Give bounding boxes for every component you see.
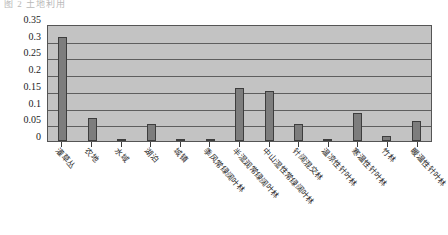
label-slot: 竹林 (373, 147, 403, 235)
label-slot: 农地 (77, 147, 107, 235)
x-category-label: 水域 (113, 147, 130, 165)
x-category-label: 农地 (83, 147, 100, 165)
label-slot: 湖泊 (136, 147, 166, 235)
label-slot: 季风常绿阔叶林 (195, 147, 225, 235)
bar (323, 139, 332, 141)
bar (58, 37, 67, 141)
bar (353, 113, 362, 141)
plot-area (47, 25, 432, 142)
label-slot: 中山湿性常绿阔叶林 (254, 147, 284, 235)
bar (265, 91, 274, 141)
bar-slot (195, 26, 224, 141)
bar (147, 124, 156, 141)
bar-slot (254, 26, 283, 141)
bar-slot (225, 26, 254, 141)
bar-slot (313, 26, 342, 141)
clipped-header-text: 图 2 土地利用 (4, 0, 164, 9)
bar-slot (107, 26, 136, 141)
label-slot: 灌草丛 (47, 147, 77, 235)
y-tick-label: 0.05 (24, 115, 42, 125)
label-slot: 半湿润常绿阔叶林 (225, 147, 255, 235)
label-slot: 水域 (106, 147, 136, 235)
bar-series (48, 26, 431, 141)
y-tick-label: 0.35 (24, 15, 42, 25)
bar-slot (166, 26, 195, 141)
y-tick-label: 0.15 (24, 82, 42, 92)
label-slot: 暖温性针叶林 (402, 147, 432, 235)
label-slot: 寒温性针叶林 (343, 147, 373, 235)
bar-slot (343, 26, 372, 141)
x-category-label: 城镇 (172, 147, 189, 165)
bar (206, 139, 215, 141)
bar (176, 139, 185, 141)
bar-slot (372, 26, 401, 141)
bar-slot (284, 26, 313, 141)
y-axis-tick-labels: 0.350.30.250.20.150.10.050 (0, 20, 44, 142)
bar (117, 139, 126, 141)
x-axis-category-labels: 灌草丛农地水域湖泊城镇季风常绿阔叶林半湿润常绿阔叶林中山湿性常绿阔叶林针阔混交林… (47, 147, 432, 235)
x-category-label: 湖泊 (143, 147, 160, 165)
y-tick-label: 0.25 (24, 48, 42, 58)
y-tick-label: 0.3 (29, 32, 42, 42)
y-tick-label: 0.2 (29, 65, 42, 75)
x-category-label: 暖温性针叶林 (409, 147, 448, 189)
bar-slot (136, 26, 165, 141)
bar (88, 118, 97, 141)
x-category-label: 竹林 (379, 147, 396, 165)
bar-slot (77, 26, 106, 141)
label-slot: 针阔混交林 (284, 147, 314, 235)
y-tick-label: 0 (36, 132, 41, 142)
label-slot: 城镇 (165, 147, 195, 235)
bar (294, 124, 303, 141)
bar-slot (402, 26, 431, 141)
label-slot: 温凉性针叶林 (313, 147, 343, 235)
bar (235, 88, 244, 141)
bar (382, 136, 391, 141)
bar-slot (48, 26, 77, 141)
x-category-label: 灌草丛 (54, 147, 77, 171)
bar (412, 121, 421, 141)
y-tick-label: 0.1 (29, 99, 42, 109)
